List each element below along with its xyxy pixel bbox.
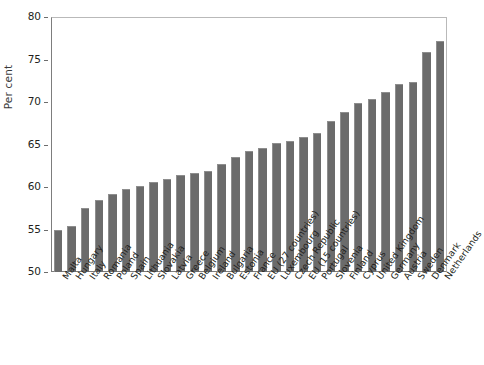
y-axis-tick-label: 55 bbox=[28, 223, 41, 235]
bar bbox=[54, 230, 62, 273]
y-axis-tick-mark bbox=[44, 17, 48, 18]
y-axis-tick-mark bbox=[44, 272, 48, 273]
y-axis-tick-label: 70 bbox=[28, 95, 41, 107]
y-axis-tick-mark bbox=[44, 60, 48, 61]
bar bbox=[368, 99, 376, 272]
y-axis-tick-label: 65 bbox=[28, 138, 41, 150]
y-axis-tick-mark bbox=[44, 230, 48, 231]
y-axis-tick-label: 80 bbox=[28, 10, 41, 22]
y-axis-tick-label: 60 bbox=[28, 180, 41, 192]
y-axis-tick-mark bbox=[44, 187, 48, 188]
x-axis-labels: MaltaHungaryItalyRomaniaPolandSpainLithu… bbox=[51, 273, 447, 365]
y-axis-title: Per cent bbox=[2, 42, 14, 132]
y-axis-tick-label: 50 bbox=[28, 265, 41, 277]
y-axis-tick-mark bbox=[44, 102, 48, 103]
bar bbox=[381, 92, 389, 272]
bar bbox=[436, 41, 444, 272]
bar bbox=[422, 52, 430, 272]
y-axis-tick-label: 75 bbox=[28, 53, 41, 65]
bars-container bbox=[51, 17, 447, 272]
y-axis-tick-mark bbox=[44, 145, 48, 146]
